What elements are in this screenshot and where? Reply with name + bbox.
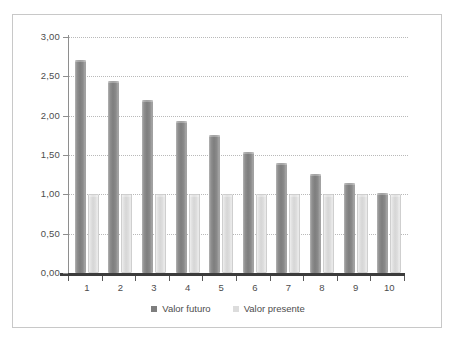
x-axis-tick-label: 1 — [73, 282, 101, 293]
legend-item-valor-presente[interactable]: Valor presente — [233, 303, 305, 314]
bar-cap — [310, 174, 321, 176]
bar-valor-futuro-10 — [377, 193, 388, 273]
x-axis-tick-label: 3 — [140, 282, 168, 293]
bar-cap — [344, 183, 355, 185]
bar-valor-presente-6 — [256, 194, 267, 273]
bar-valor-futuro-9 — [344, 183, 355, 273]
x-axis-tick-label: 4 — [174, 282, 202, 293]
x-axis-tick — [270, 276, 271, 281]
chart-screenshot: 3,002,502,001,501,000,500,00 12345678910… — [0, 0, 456, 342]
y-axis-tick-label: 0,50 — [18, 228, 60, 239]
bar-valor-presente-3 — [155, 194, 166, 273]
x-axis-tick — [370, 276, 371, 281]
y-axis-tick — [63, 194, 68, 195]
bar-cap — [358, 195, 367, 197]
y-axis-tick-label: 0,00 — [18, 267, 60, 278]
y-axis-tick-label: 1,00 — [18, 188, 60, 199]
x-axis-tick-label: 7 — [274, 282, 302, 293]
bar-valor-presente-5 — [222, 194, 233, 273]
chart-legend: Valor futuro Valor presente — [0, 303, 456, 314]
bar-cap — [290, 195, 299, 197]
x-axis-tick — [303, 276, 304, 281]
bar-valor-futuro-6 — [243, 152, 254, 273]
y-axis-tick-label: 2,00 — [18, 110, 60, 121]
x-axis-tick — [102, 276, 103, 281]
y-axis-tick — [63, 116, 68, 117]
bar-valor-futuro-4 — [176, 121, 187, 273]
bar-cap — [324, 195, 333, 197]
bar-cap — [122, 195, 131, 197]
bar-cap — [391, 195, 400, 197]
bar-cap — [223, 195, 232, 197]
x-axis-tick — [169, 276, 170, 281]
y-axis-line — [68, 35, 69, 275]
x-axis-tick — [202, 276, 203, 281]
bar-valor-futuro-3 — [142, 100, 153, 273]
bar-cap — [75, 60, 86, 62]
gridline — [68, 37, 408, 38]
legend-label-presente: Valor presente — [244, 303, 305, 314]
bar-valor-presente-4 — [189, 194, 200, 273]
x-axis-tick — [404, 276, 405, 281]
x-axis-tick — [68, 276, 69, 281]
x-axis-tick-label: 6 — [241, 282, 269, 293]
x-axis-tick-label: 2 — [106, 282, 134, 293]
bar-valor-presente-8 — [323, 194, 334, 273]
gridline — [68, 76, 408, 77]
legend-label-futuro: Valor futuro — [162, 303, 210, 314]
bar-valor-futuro-8 — [310, 174, 321, 273]
bar-valor-futuro-1 — [75, 60, 86, 273]
x-axis-tick-label: 8 — [308, 282, 336, 293]
y-axis-tick — [63, 273, 68, 274]
bar-cap — [257, 195, 266, 197]
bar-cap — [377, 193, 388, 195]
x-axis-tick — [135, 276, 136, 281]
x-axis-tick-label: 5 — [207, 282, 235, 293]
y-axis-tick — [63, 76, 68, 77]
y-axis-labels: 3,002,502,001,501,000,500,00 — [14, 0, 60, 342]
legend-item-valor-futuro[interactable]: Valor futuro — [151, 303, 210, 314]
bar-cap — [156, 195, 165, 197]
y-axis-tick-label: 2,50 — [18, 70, 60, 81]
legend-swatch-icon-presente — [233, 306, 239, 312]
bar-cap — [209, 135, 220, 137]
legend-swatch-icon-futuro — [151, 306, 157, 312]
bar-cap — [108, 81, 119, 83]
x-axis-tick-label: 10 — [375, 282, 403, 293]
x-axis-tick — [337, 276, 338, 281]
bar-cap — [243, 152, 254, 154]
x-axis-tick — [236, 276, 237, 281]
bar-valor-futuro-7 — [276, 163, 287, 273]
y-axis-tick-label: 3,00 — [18, 31, 60, 42]
bar-valor-presente-9 — [357, 194, 368, 273]
bar-valor-presente-1 — [88, 194, 99, 273]
bar-valor-futuro-5 — [209, 135, 220, 273]
bar-valor-presente-10 — [390, 194, 401, 273]
bar-cap — [276, 163, 287, 165]
y-axis-tick — [63, 37, 68, 38]
x-axis-tick-label: 9 — [342, 282, 370, 293]
bar-cap — [89, 195, 98, 197]
y-axis-tick-label: 1,50 — [18, 149, 60, 160]
y-axis-tick — [63, 234, 68, 235]
bar-cap — [142, 100, 153, 102]
x-axis-line — [60, 273, 405, 276]
bar-valor-futuro-2 — [108, 81, 119, 273]
bar-cap — [190, 195, 199, 197]
bar-cap — [176, 121, 187, 123]
bar-valor-presente-2 — [121, 194, 132, 273]
bar-valor-presente-7 — [289, 194, 300, 273]
plot-area — [68, 37, 404, 273]
y-axis-tick — [63, 155, 68, 156]
